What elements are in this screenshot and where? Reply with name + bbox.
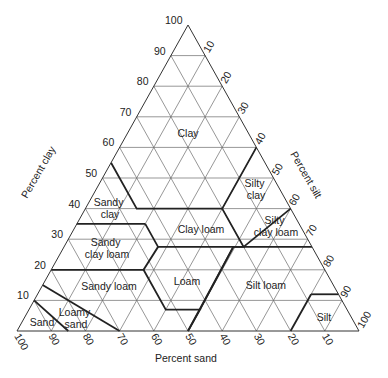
clay-tick-70: 70 [120,106,132,118]
clay-tick-90: 90 [154,45,166,57]
region-label-clay: Clay [177,127,199,139]
clay-tick-10: 10 [17,289,29,301]
clay-tick-30: 30 [51,228,63,240]
region-label-silty-clay-loam: Silty clay loam [254,214,299,238]
sand-tick-70: 70 [115,331,131,347]
boundary-silt-left [291,294,312,331]
region-label-clay-loam: Clay loam [178,223,225,235]
silt-axis-title: Percent silt [288,149,324,200]
region-label-silt: Silt [317,311,332,323]
sand-tick-10: 10 [320,331,336,347]
sand-axis-ticks: 100908070605040302010 [12,331,336,352]
clay-tick-50: 50 [86,167,98,179]
sand-tick-90: 90 [46,331,62,347]
grid-lines [34,56,342,331]
region-labels: Clay Sandy clay Silty clay Sandy clay lo… [30,127,332,330]
sand-tick-80: 80 [81,331,97,347]
region-label-silt-loam: Silt loam [246,279,287,291]
sand-tick-40: 40 [217,331,233,347]
region-label-sandy-clay: Sandy clay [94,196,127,220]
region-label-sand: Sand [30,316,55,328]
sand-tick-30: 30 [252,331,268,347]
silt-axis-ticks: 102030405060708090100 [200,38,373,330]
sand-axis-title: Percent sand [155,352,217,364]
region-label-silty-clay: Silty clay [245,177,268,201]
clay-tick-100: 100 [165,14,183,26]
region-label-sandy-loam: Sandy loam [81,280,137,292]
boundary-silt-loam [188,247,233,331]
clay-axis-title: Percent clay [18,143,58,200]
clay-tick-20: 20 [34,259,46,271]
clay-tick-80: 80 [137,75,149,87]
sand-tick-100: 100 [12,331,31,352]
clay-tick-60: 60 [103,136,115,148]
region-label-sandy-clay-loam: Sandy clay loam [85,236,130,260]
sand-tick-60: 60 [149,331,165,347]
soil-texture-triangle: 102030405060708090100 102030405060708090… [0,0,388,378]
clay-tick-40: 40 [68,198,80,210]
sand-tick-20: 20 [286,331,302,347]
sand-tick-50: 50 [183,331,199,347]
region-label-loam: Loam [174,275,201,287]
